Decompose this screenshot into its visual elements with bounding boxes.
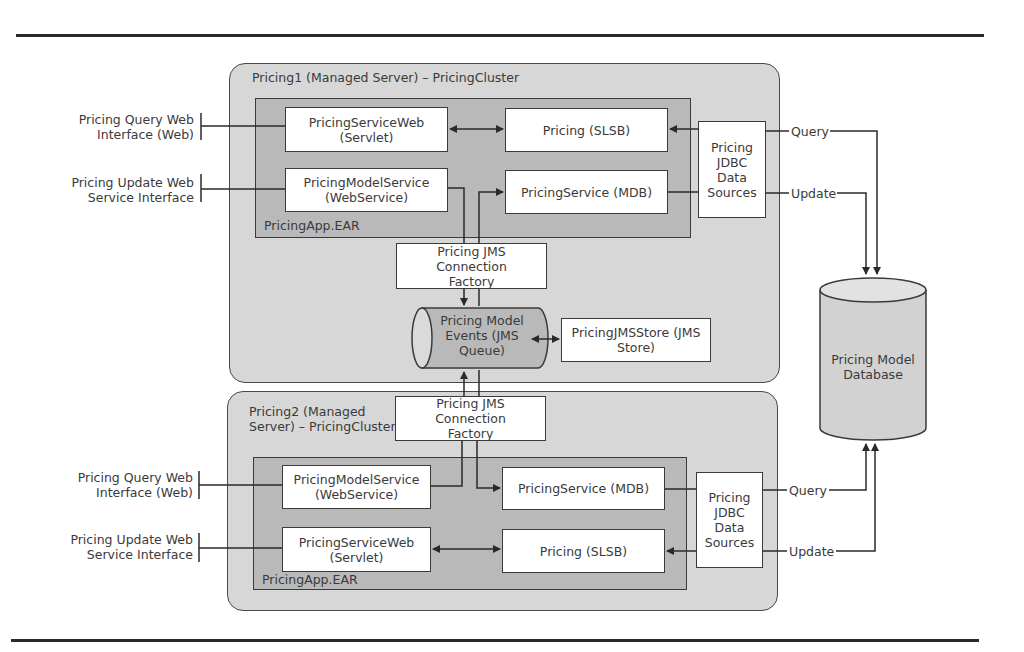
server2-ear-label: PricingApp.EAR <box>262 572 358 587</box>
server2-pricing-service-mdb[interactable]: PricingService (MDB) <box>502 467 665 510</box>
server2-query-web-interface: Pricing Query Web Interface (Web) <box>40 470 193 500</box>
server1-update-web-service-interface: Pricing Update Web Service Interface <box>40 175 194 205</box>
server2-update-link-label: Update <box>789 544 834 559</box>
top-rule <box>16 34 984 37</box>
jms-queue-label: Pricing Model Events (JMS Queue) <box>422 313 542 358</box>
server2-jms-connection-factory[interactable]: Pricing JMS Connection Factory <box>395 396 546 441</box>
bottom-rule <box>11 639 979 642</box>
server2-title: Pricing2 (Managed Server) – PricingClust… <box>249 404 396 434</box>
server2-pricing-service-web[interactable]: PricingServiceWeb (Servlet) <box>282 527 431 572</box>
pricing-jms-store[interactable]: PricingJMSStore (JMS Store) <box>561 318 711 362</box>
server2-query-link-label: Query <box>789 483 827 498</box>
server1-jdbc-data-sources[interactable]: Pricing JDBC Data Sources <box>698 121 766 218</box>
server1-query-web-interface: Pricing Query Web Interface (Web) <box>40 112 194 142</box>
pricing-model-database-label: Pricing Model Database <box>818 352 928 382</box>
server1-title: Pricing1 (Managed Server) – PricingClust… <box>252 70 519 85</box>
server1-pricing-service-web[interactable]: PricingServiceWeb (Servlet) <box>285 107 448 152</box>
server1-update-link-label: Update <box>791 186 836 201</box>
server1-ear-label: PricingApp.EAR <box>264 218 360 233</box>
server1-pricing-service-mdb[interactable]: PricingService (MDB) <box>505 170 668 214</box>
server2-pricing-slsb[interactable]: Pricing (SLSB) <box>502 529 665 573</box>
server1-query-link-label: Query <box>791 124 829 139</box>
server1-jms-connection-factory[interactable]: Pricing JMS Connection Factory <box>396 243 547 289</box>
server2-pricing-model-service[interactable]: PricingModelService (WebService) <box>282 465 431 509</box>
server1-pricing-model-service[interactable]: PricingModelService (WebService) <box>285 168 448 212</box>
server2-jdbc-data-sources[interactable]: Pricing JDBC Data Sources <box>696 472 763 568</box>
server2-update-web-service-interface: Pricing Update Web Service Interface <box>40 532 193 562</box>
server1-pricing-slsb[interactable]: Pricing (SLSB) <box>505 108 668 152</box>
